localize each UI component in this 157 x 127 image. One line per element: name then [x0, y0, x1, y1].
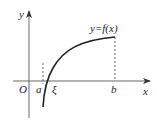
curve-label: y=f(x) [89, 22, 118, 35]
x-axis-label: x [142, 85, 148, 97]
origin-label: O [19, 83, 27, 95]
point-a-label: a [36, 83, 42, 95]
point-xi-label: ξ [52, 83, 57, 96]
function-curve [43, 37, 115, 107]
point-b-label: b [111, 83, 117, 95]
y-axis-label: y [18, 8, 24, 20]
diagram-canvas: y x O a ξ b y=f(x) [0, 0, 157, 127]
